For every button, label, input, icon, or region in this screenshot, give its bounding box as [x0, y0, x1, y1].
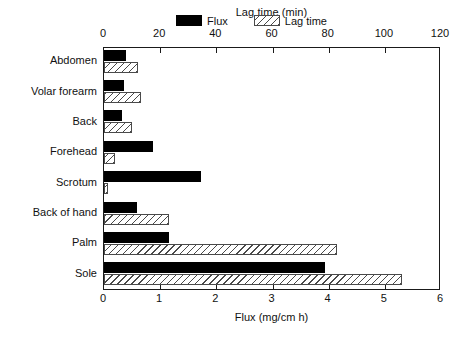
category-label: Abdomen — [0, 54, 97, 66]
bar-flux — [104, 171, 201, 182]
bar-flux — [104, 110, 122, 121]
category-label: Forehead — [0, 145, 97, 157]
bar-flux — [104, 262, 325, 273]
bar-lag-time — [104, 153, 115, 164]
bar-flux — [104, 80, 124, 91]
top-axis-tick-labels: 020406080100120 — [103, 27, 440, 41]
category-label: Back of hand — [0, 206, 97, 218]
category-label: Scrotum — [0, 176, 97, 188]
top-tick-label: 20 — [153, 27, 165, 39]
top-tick-label: 40 — [209, 27, 221, 39]
bottom-tick-label: 1 — [156, 292, 162, 304]
bar-flux — [104, 202, 137, 213]
bar-lag-time — [104, 183, 108, 194]
chart-figure: Lag time (min) 020406080100120 AbdomenVo… — [0, 0, 469, 340]
bar-lag-time — [104, 214, 169, 225]
plot-area — [103, 47, 440, 290]
bar-lag-time — [104, 122, 132, 133]
legend-label: Flux — [207, 15, 228, 27]
bottom-tick-label: 6 — [437, 292, 443, 304]
bottom-tick-label: 0 — [100, 292, 106, 304]
top-tick-mark — [329, 48, 330, 53]
legend-entry: Flux — [176, 15, 228, 27]
bar-flux — [104, 141, 153, 152]
legend-swatch-flux — [176, 15, 202, 26]
bar-lag-time — [104, 244, 337, 255]
bottom-tick-label: 5 — [381, 292, 387, 304]
legend-swatch-lag-time — [254, 15, 280, 26]
bottom-axis-title: Flux (mg/cm h) — [103, 311, 440, 323]
bar-lag-time — [104, 92, 141, 103]
top-tick-label: 80 — [322, 27, 334, 39]
category-label: Back — [0, 115, 97, 127]
bar-flux — [104, 232, 169, 243]
category-label: Palm — [0, 236, 97, 248]
legend-entry: Lag time — [254, 15, 327, 27]
bar-lag-time — [104, 274, 402, 285]
top-tick-label: 0 — [100, 27, 106, 39]
top-tick-label: 100 — [375, 27, 393, 39]
bottom-tick-label: 3 — [268, 292, 274, 304]
top-tick-mark — [385, 48, 386, 53]
bar-flux — [104, 50, 126, 61]
top-tick-mark — [273, 48, 274, 53]
chart-legend: FluxLag time — [176, 14, 327, 27]
bar-lag-time — [104, 62, 138, 73]
bottom-axis-tick-labels: 0123456 — [103, 292, 440, 306]
top-tick-mark — [216, 48, 217, 53]
top-tick-mark — [160, 48, 161, 53]
bottom-tick-label: 4 — [325, 292, 331, 304]
bottom-tick-label: 2 — [212, 292, 218, 304]
top-tick-label: 60 — [265, 27, 277, 39]
category-label: Volar forearm — [0, 85, 97, 97]
category-axis-labels: AbdomenVolar forearmBackForeheadScrotumB… — [0, 47, 97, 290]
top-tick-label: 120 — [431, 27, 449, 39]
legend-label: Lag time — [285, 15, 327, 27]
category-label: Sole — [0, 267, 97, 279]
